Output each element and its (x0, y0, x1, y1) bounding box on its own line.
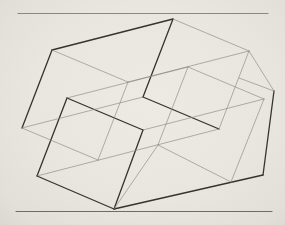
figure-edge-P6-T1 (239, 78, 274, 91)
figure-edge-J1-P3 (22, 97, 143, 128)
figure-edge-Vd-Vb (67, 67, 188, 98)
figure-edge-Ve-P4 (114, 130, 143, 209)
figure-edge-J1-Vc (143, 97, 219, 129)
figure-edge-B1-Vc (37, 129, 219, 176)
wireframe-prisms-drawing (0, 0, 285, 225)
figure-edge-B2-R2 (158, 145, 231, 182)
figure-edges (22, 19, 274, 209)
figure-edge-P1-J1 (143, 19, 173, 97)
figure-edge-Vd-Ve (67, 98, 143, 130)
figure-edge-P5-Vc (219, 51, 249, 129)
figure-edge-R1-R2 (231, 99, 264, 182)
figure-edge-P2-P3 (22, 50, 52, 128)
figure-edge-Vf-P6 (263, 91, 274, 175)
figure-edge-Vd-B1 (37, 98, 67, 176)
figure-edge-Va-Q (98, 82, 128, 160)
structural-constellation-artwork (0, 0, 285, 225)
figure-edge-P5-Va (128, 51, 249, 82)
figure-edge-P1-P2 (52, 19, 173, 50)
figure-edge-P5-P6 (249, 51, 274, 91)
figure-edge-P3-Q (22, 128, 98, 160)
figure-edge-P2-Va (52, 50, 128, 82)
figure-edge-P1-P5 (173, 19, 249, 51)
figure-edge-Vb-B2 (158, 67, 188, 145)
figure-edge-B1-P4 (37, 176, 114, 209)
figure-edge-P4-Vf (114, 175, 263, 209)
figure-edge-Ve-R1 (143, 99, 264, 130)
